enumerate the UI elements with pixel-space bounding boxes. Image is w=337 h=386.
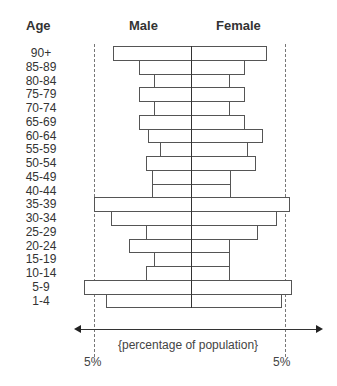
female-bar — [191, 252, 230, 267]
female-bar — [191, 74, 230, 89]
age-label: 35-39 — [18, 198, 64, 212]
female-bar — [191, 129, 263, 144]
age-label: 25-29 — [18, 226, 64, 240]
male-header: Male — [129, 18, 158, 33]
tick-right-5pct: 5% — [273, 355, 290, 369]
female-bar — [191, 170, 231, 185]
female-bar — [191, 225, 258, 240]
x-axis-label: {percentage of population} — [118, 338, 258, 352]
age-label: 65-69 — [18, 116, 64, 130]
female-bar — [191, 142, 248, 157]
age-label: 5-9 — [18, 281, 64, 295]
female-bar — [191, 87, 245, 102]
female-bar — [191, 197, 290, 212]
male-bar — [129, 239, 192, 254]
age-header: Age — [26, 18, 51, 33]
male-bar — [146, 156, 192, 171]
age-label: 1-4 — [18, 295, 64, 309]
female-bar — [191, 266, 230, 281]
male-bar — [106, 294, 192, 309]
female-header: Female — [216, 18, 261, 33]
age-label: 50-54 — [18, 157, 64, 171]
age-label: 60-64 — [18, 130, 64, 144]
female-bar — [191, 60, 245, 75]
female-bar — [191, 280, 292, 295]
female-bar — [191, 211, 277, 226]
age-label: 10-14 — [18, 267, 64, 281]
female-bar — [191, 184, 231, 199]
male-bar — [160, 142, 192, 157]
male-bar — [152, 184, 192, 199]
age-label: 70-74 — [18, 102, 64, 116]
male-bar — [152, 170, 192, 185]
male-bar — [139, 115, 192, 130]
age-label: 80-84 — [18, 75, 64, 89]
tick-left-5pct: 5% — [84, 355, 101, 369]
male-bar — [148, 129, 192, 144]
age-label: 90+ — [18, 47, 64, 61]
arrow-right-icon — [316, 325, 323, 333]
female-bar — [191, 239, 230, 254]
age-label: 85-89 — [18, 61, 64, 75]
female-bar — [191, 156, 256, 171]
male-bar — [94, 197, 192, 212]
age-label: 30-34 — [18, 212, 64, 226]
center-axis — [191, 46, 192, 308]
female-bar — [191, 115, 245, 130]
age-label: 75-79 — [18, 88, 64, 102]
arrow-left-icon — [74, 325, 81, 333]
male-bar — [146, 225, 192, 240]
female-bar — [191, 46, 267, 61]
male-bar — [154, 252, 192, 267]
age-label: 45-49 — [18, 171, 64, 185]
male-bar — [113, 46, 192, 61]
male-bar — [111, 211, 192, 226]
age-label: 15-19 — [18, 253, 64, 267]
male-bar — [154, 74, 192, 89]
male-bar — [139, 60, 192, 75]
male-bar — [154, 101, 192, 116]
female-bar — [191, 294, 282, 309]
male-bar — [139, 87, 192, 102]
axis-line — [80, 329, 316, 330]
male-bar — [146, 266, 192, 281]
age-label: 55-59 — [18, 143, 64, 157]
age-label: 40-44 — [18, 185, 64, 199]
female-bar — [191, 101, 230, 116]
age-label: 20-24 — [18, 240, 64, 254]
male-bar — [84, 280, 192, 295]
